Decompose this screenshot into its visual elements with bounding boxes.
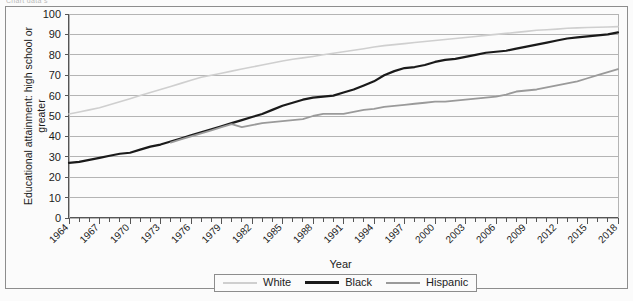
y-tick-label: 80 (49, 49, 61, 61)
x-tick-label: 2015 (565, 221, 589, 245)
legend-swatch-white-icon (223, 282, 257, 284)
legend-label: White (263, 277, 291, 288)
y-tick-label: 20 (49, 171, 61, 183)
y-tick-label: 10 (49, 192, 61, 204)
x-tick-label: 2012 (535, 221, 559, 245)
x-tick-label: 2009 (504, 221, 528, 245)
y-tick-label: 40 (49, 130, 61, 142)
x-tick-label: 1997 (382, 221, 406, 245)
x-tick-label: 1964 (47, 221, 71, 245)
legend-swatch-black-icon (305, 281, 339, 284)
screenshot-page: Chart data s 010203040506070809010019641… (0, 0, 633, 301)
y-tick-label: 90 (49, 28, 61, 40)
x-tick-label: 1991 (321, 221, 345, 245)
legend-swatch-hispanic-icon (386, 282, 420, 284)
x-tick-label: 1994 (352, 221, 376, 245)
x-tick-label: 2018 (596, 221, 620, 245)
y-tick-label: 70 (49, 69, 61, 81)
legend-label: Hispanic (426, 277, 468, 288)
legend-item-hispanic[interactable]: Hispanic (386, 277, 468, 288)
y-axis-title: Educational attainment: high school or g… (22, 14, 48, 218)
x-tick-label: 1967 (77, 221, 101, 245)
x-axis-title: Year (330, 258, 352, 270)
legend-item-black[interactable]: Black (305, 277, 372, 288)
x-tick-label: 1985 (260, 221, 284, 245)
x-tick-label: 1988 (291, 221, 315, 245)
x-tick-label: 2003 (443, 221, 467, 245)
x-tick-label: 1976 (169, 221, 193, 245)
y-tick-label: 0 (55, 212, 61, 224)
line-chart: 0102030405060708090100196419671970197319… (0, 0, 633, 301)
x-tick-label: 1982 (230, 221, 254, 245)
legend-item-white[interactable]: White (223, 277, 291, 288)
chart-legend: WhiteBlackHispanic (214, 274, 477, 292)
legend-label: Black (345, 277, 372, 288)
y-tick-label: 30 (49, 151, 61, 163)
x-tick-label: 1970 (108, 221, 132, 245)
x-tick-label: 1973 (138, 221, 162, 245)
x-tick-label: 2000 (413, 221, 437, 245)
x-tick-label: 2006 (474, 221, 498, 245)
y-tick-label: 50 (49, 110, 61, 122)
y-tick-label: 60 (49, 90, 61, 102)
x-tick-label: 1979 (199, 221, 223, 245)
